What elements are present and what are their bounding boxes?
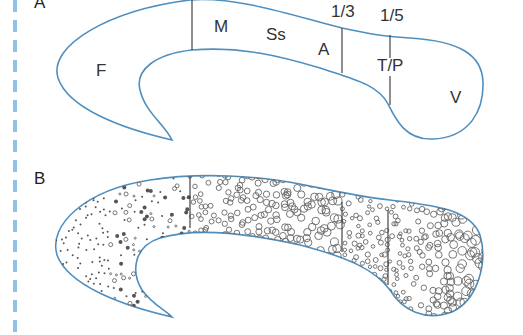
cortical-gradient-diagram: A F M Ss A 1/3 1/5 T/P V B (0, 0, 523, 335)
region-label-association: A (318, 40, 330, 59)
region-label-motor: M (214, 17, 228, 36)
marker-one-fifth: 1/5 (380, 6, 404, 25)
panel-a: A F M Ss A 1/3 1/5 T/P V (34, 0, 483, 140)
panel-a-outline (57, 0, 483, 140)
panel-a-label: A (34, 0, 46, 12)
panel-b: B (34, 166, 496, 330)
region-label-visual: V (450, 88, 462, 107)
marker-one-third: 1/3 (331, 2, 355, 21)
region-label-frontal: F (96, 61, 106, 80)
region-label-temporal-parietal: T/P (377, 56, 403, 75)
panel-b-label: B (34, 169, 45, 188)
region-label-somatosensory: Ss (266, 25, 286, 44)
